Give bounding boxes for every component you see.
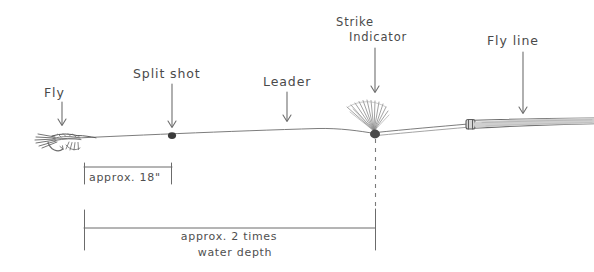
leader-segment <box>318 128 375 133</box>
dimension-long-label-line1: approx. 2 times <box>181 230 277 243</box>
label-fly: Fly <box>44 85 65 100</box>
dimension-short-group: approx. 18" <box>84 163 172 184</box>
diagram-canvas: Fly Split shot Leader Strike Indicator F… <box>0 0 594 272</box>
label-fly-line-group: Fly line <box>487 33 539 114</box>
dimension-long-label-line2: water depth <box>198 246 273 259</box>
label-leader: Leader <box>263 74 311 89</box>
label-split-shot-group: Split shot <box>133 66 201 128</box>
leader-line-group <box>55 124 467 139</box>
label-leader-group: Leader <box>263 74 311 122</box>
fly-rig-diagram: Fly Split shot Leader Strike Indicator F… <box>0 0 594 272</box>
label-strike-indicator-line2: Indicator <box>349 30 407 44</box>
dimension-long-group: approx. 2 times water depth <box>84 209 376 259</box>
label-split-shot: Split shot <box>133 66 201 81</box>
label-fly-group: Fly <box>44 85 66 126</box>
label-strike-indicator-group: Strike Indicator <box>336 15 407 93</box>
label-strike-indicator-line1: Strike <box>336 15 374 29</box>
split-shot-marker <box>168 132 176 139</box>
line-connector-knot <box>466 120 475 130</box>
fly-illustration <box>35 134 96 151</box>
fly-line-body <box>474 118 594 128</box>
dimension-short-label: approx. 18" <box>89 171 161 184</box>
label-fly-line: Fly line <box>487 33 539 48</box>
